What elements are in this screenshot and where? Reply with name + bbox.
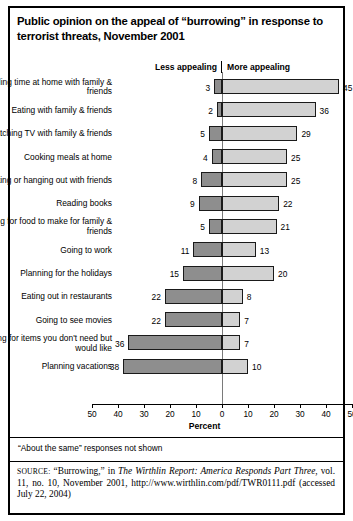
value-label-more: 22 (283, 199, 292, 209)
source-divider (10, 461, 343, 462)
x-axis-tick (92, 404, 93, 408)
bar-less-appealing (165, 312, 222, 327)
bar-less-appealing (199, 196, 222, 211)
x-axis-tick-label: 40 (321, 409, 330, 419)
x-axis-tick (196, 404, 197, 408)
source-text-1: “Burrowing,” in (50, 466, 118, 476)
x-axis-tick-label: 10 (191, 409, 200, 419)
x-axis-tick (300, 404, 301, 408)
bar-group: 425 (0, 146, 353, 169)
x-axis-tick-label: 40 (113, 409, 122, 419)
bar-less-appealing (209, 126, 222, 141)
value-label-more: 8 (247, 292, 252, 302)
bar-less-appealing (128, 335, 222, 350)
bar-row: Eating with family & friends236 (0, 99, 353, 122)
x-axis-tick-label: 30 (139, 409, 148, 419)
x-axis-tick-label: 20 (269, 409, 278, 419)
value-label-more: 7 (244, 339, 249, 349)
value-label-less: 36 (115, 339, 124, 349)
bar-less-appealing (183, 266, 222, 281)
value-label-less: 9 (190, 199, 195, 209)
value-label-more: 25 (291, 153, 300, 163)
bar-group: 367 (0, 332, 353, 355)
bar-more-appealing (222, 126, 297, 141)
value-label-more: 36 (320, 106, 329, 116)
figure-panel: Public opinion on the appeal of “burrowi… (0, 0, 353, 521)
x-axis-title-text: Percent (133, 421, 221, 431)
legend-more-appealing: More appealing (227, 62, 290, 72)
bar-row: Planning for the holidays1520 (0, 262, 353, 285)
bar-more-appealing (222, 102, 316, 117)
bar-more-appealing (222, 312, 240, 327)
value-label-less: 2 (208, 106, 213, 116)
bar-row: Spending time at home with family & frie… (0, 76, 353, 99)
x-axis-tick-label: 10 (243, 409, 252, 419)
bar-more-appealing (222, 266, 274, 281)
value-label-less: 8 (193, 176, 198, 186)
bar-row: Reading books922 (0, 192, 353, 215)
bar-less-appealing (209, 219, 222, 234)
bar-less-appealing (212, 149, 222, 164)
bar-group: 228 (0, 286, 353, 309)
bar-group: 1113 (0, 239, 353, 262)
bar-group: 236 (0, 99, 353, 122)
value-label-more: 21 (281, 222, 290, 232)
x-axis-title: Percent (0, 421, 353, 431)
bar-row: Cooking meals at home425 (0, 146, 353, 169)
x-axis-tick-label: 0 (220, 409, 225, 419)
bar-more-appealing (222, 149, 287, 164)
x-axis-tick (170, 404, 171, 408)
bar-less-appealing (214, 79, 222, 94)
bar-more-appealing (222, 242, 256, 257)
value-label-more: 45 (343, 83, 352, 93)
bar-more-appealing (222, 219, 277, 234)
chart-footnote: “About the same” responses not shown (18, 443, 162, 453)
x-axis-tick-label: 20 (165, 409, 174, 419)
value-label-more: 29 (301, 129, 310, 139)
source-citation: SOURCE: “Burrowing,” in The Wirthlin Rep… (17, 466, 335, 501)
legend-less-appealing: Less appealing (155, 62, 217, 72)
bar-less-appealing (193, 242, 222, 257)
bar-row: Going to work1113 (0, 239, 353, 262)
value-label-less: 11 (181, 246, 190, 256)
value-label-more: 25 (291, 176, 300, 186)
value-label-more: 7 (244, 316, 249, 326)
x-axis-tick-label: 50 (87, 409, 96, 419)
source-publication-title: The Wirthlin Report: America Responds Pa… (118, 466, 315, 476)
value-label-more: 20 (278, 269, 287, 279)
x-axis-tick (222, 404, 223, 408)
x-axis-tick (248, 404, 249, 408)
value-label-less: 3 (206, 83, 211, 93)
footnote-divider (10, 437, 343, 438)
x-axis-tick (274, 404, 275, 408)
x-axis-tick-label: 50 (347, 409, 353, 419)
bar-group: 529 (0, 123, 353, 146)
bar-group: 922 (0, 192, 353, 215)
bar-more-appealing (222, 172, 287, 187)
bar-less-appealing (165, 289, 222, 304)
bar-row: Watching TV with family & friends529 (0, 123, 353, 146)
value-label-less: 22 (151, 292, 160, 302)
bar-more-appealing (222, 335, 240, 350)
x-axis-tick (144, 404, 145, 408)
bar-more-appealing (222, 289, 243, 304)
bar-more-appealing (222, 359, 248, 374)
bar-rows: Spending time at home with family & frie… (0, 76, 353, 379)
value-label-less: 38 (110, 362, 119, 372)
x-axis-tick (326, 404, 327, 408)
value-label-less: 5 (200, 222, 205, 232)
bar-group: 1520 (0, 262, 353, 285)
x-axis-tick-label: 30 (295, 409, 304, 419)
source-label: SOURCE: (17, 467, 50, 476)
bar-less-appealing (123, 359, 222, 374)
bar-group: 3810 (0, 356, 353, 379)
bar-row: Planning vacations3810 (0, 356, 353, 379)
bar-row: Shopping for food to make for family & f… (0, 216, 353, 239)
bar-group: 227 (0, 309, 353, 332)
bar-less-appealing (201, 172, 222, 187)
bar-group: 521 (0, 216, 353, 239)
bar-group: 825 (0, 169, 353, 192)
value-label-less: 5 (200, 129, 205, 139)
bar-row: Going to see movies227 (0, 309, 353, 332)
bar-row: Shopping for items you don't need but wo… (0, 332, 353, 355)
